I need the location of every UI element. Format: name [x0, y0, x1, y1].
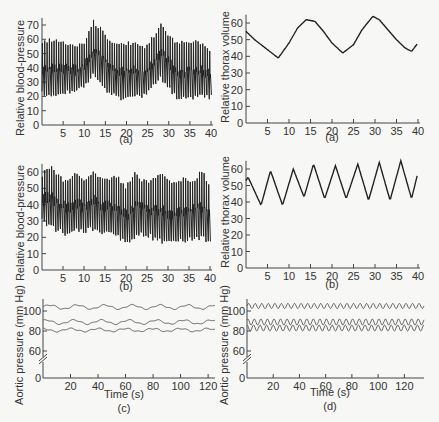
y-axis-label: Aortic pressure (mm Hg) — [218, 285, 230, 405]
x-tick-label: 10 — [78, 272, 90, 284]
x-tick-label: 10 — [283, 125, 295, 137]
y-tick-label: 60 — [233, 345, 245, 357]
y-tick-label: 0 — [237, 117, 243, 129]
x-tick-label: 15 — [99, 272, 111, 284]
y-tick-label: 0 — [33, 119, 39, 131]
y-tick-label: 60 — [231, 163, 243, 175]
y-tick-label: 40 — [231, 196, 243, 208]
y-tick-label: 0 — [35, 372, 41, 384]
x-tick-label: 20 — [267, 380, 279, 392]
panel-caption: (c) — [118, 402, 131, 414]
panel-c: 0608010020406080100120 — [23, 299, 218, 392]
y-tick-label: 70 — [27, 19, 39, 31]
y-tick-label: 30 — [231, 213, 243, 225]
x-tick-label: 30 — [369, 125, 381, 137]
x-tick-label: 15 — [304, 270, 316, 282]
aortic-pressure-trace-lower — [247, 325, 424, 331]
y-tick-label: 0 — [239, 372, 245, 384]
x-tick-label: 10 — [283, 270, 295, 282]
x-tick-label: 40 — [92, 380, 104, 392]
x-tick-label: 120 — [199, 380, 217, 392]
y-axis-label: Relative blood-pressure — [14, 20, 26, 136]
x-tick-label: 40 — [293, 380, 305, 392]
panel-caption: (b) — [325, 278, 338, 290]
y-tick-label: 40 — [27, 199, 39, 211]
y-axis-label: Aortic pressure (mm Hg) — [13, 285, 25, 405]
y-tick-label: 60 — [29, 345, 41, 357]
y-tick-label: 50 — [27, 182, 39, 194]
panel-left-b: 0102030405060510152025303540 — [27, 164, 216, 284]
y-tick-label: 50 — [27, 48, 39, 60]
y-tick-label: 60 — [27, 166, 39, 178]
y-tick-label: 40 — [27, 62, 39, 74]
y-tick-label: 0 — [237, 262, 243, 274]
x-tick-label: 20 — [64, 380, 76, 392]
y-tick-label: 50 — [231, 180, 243, 192]
y-axis-label: Relative thorax volume — [219, 11, 231, 123]
aortic-pressure-trace-middle — [43, 319, 215, 324]
figure-canvas: 010203040506070510152025303540 Relative … — [0, 0, 439, 422]
x-tick-label: 40 — [412, 125, 424, 137]
y-tick-label: 10 — [231, 246, 243, 258]
blood-pressure-trace — [42, 20, 211, 100]
x-tick-label: 25 — [347, 125, 359, 137]
x-axis-label: Time (s) — [104, 388, 144, 400]
x-tick-label: 25 — [141, 272, 153, 284]
panel-caption: (a) — [325, 131, 338, 143]
x-tick-label: 100 — [171, 380, 189, 392]
y-tick-label: 20 — [231, 84, 243, 96]
thorax-volume-trace — [246, 17, 417, 58]
x-tick-label: 35 — [390, 125, 402, 137]
panel-caption: (d) — [323, 400, 336, 412]
panel-caption: (a) — [119, 133, 132, 145]
aortic-pressure-trace-upper — [247, 304, 424, 309]
y-axis-label: Relative thorax volume — [219, 156, 231, 268]
x-tick-label: 5 — [264, 125, 270, 137]
y-tick-label: 20 — [231, 229, 243, 241]
x-tick-label: 5 — [60, 272, 66, 284]
x-tick-label: 100 — [369, 380, 387, 392]
y-tick-label: 0 — [33, 264, 39, 276]
x-tick-label: 25 — [142, 127, 154, 139]
x-tick-label: 30 — [369, 270, 381, 282]
y-tick-label: 60 — [27, 33, 39, 45]
x-tick-label: 15 — [304, 125, 316, 137]
panel-right-a: 0102030405060510152025303540 — [231, 15, 424, 137]
y-tick-label: 30 — [27, 76, 39, 88]
x-tick-label: 120 — [395, 380, 413, 392]
x-tick-label: 25 — [347, 270, 359, 282]
y-tick-label: 80 — [29, 325, 41, 337]
y-axis-label: Relative blood-pressure — [14, 165, 26, 281]
x-tick-label: 35 — [390, 270, 402, 282]
x-tick-label: 40 — [204, 272, 216, 284]
y-tick-label: 30 — [27, 215, 39, 227]
panel-caption: (b) — [119, 280, 132, 292]
y-tick-label: 100 — [23, 305, 41, 317]
y-tick-label: 30 — [231, 67, 243, 79]
x-tick-label: 5 — [264, 270, 270, 282]
y-tick-label: 20 — [27, 90, 39, 102]
panel-left-a: 010203040506070510152025303540 — [27, 18, 217, 139]
panel-right-b: 0102030405060510152025303540 — [231, 161, 424, 282]
x-tick-label: 40 — [205, 127, 217, 139]
x-tick-label: 35 — [184, 127, 196, 139]
y-tick-label: 80 — [233, 325, 245, 337]
y-tick-label: 50 — [231, 34, 243, 46]
y-tick-label: 10 — [27, 248, 39, 260]
x-tick-label: 5 — [60, 127, 66, 139]
y-tick-label: 40 — [231, 50, 243, 62]
y-tick-label: 20 — [27, 231, 39, 243]
x-tick-label: 15 — [99, 127, 111, 139]
thorax-volume-trace — [246, 161, 417, 205]
x-tick-label: 10 — [78, 127, 90, 139]
aortic-pressure-trace-middle — [247, 319, 424, 325]
aortic-pressure-trace-lower — [43, 328, 215, 332]
aortic-pressure-trace-upper — [43, 304, 215, 309]
x-tick-label: 30 — [162, 272, 174, 284]
panel-d: 0608010020406080100120 — [227, 299, 424, 392]
blood-pressure-trace — [42, 166, 210, 243]
x-tick-label: 80 — [147, 380, 159, 392]
x-tick-label: 30 — [163, 127, 175, 139]
x-tick-label: 40 — [412, 270, 424, 282]
y-tick-label: 10 — [27, 105, 39, 117]
